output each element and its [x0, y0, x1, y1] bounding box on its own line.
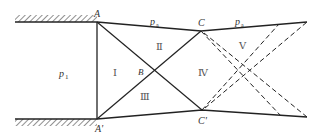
svg-text:1: 1 [65, 73, 69, 81]
svg-text:p: p [234, 16, 240, 27]
expansion-fan-upper [201, 31, 307, 117]
upper-wall [15, 15, 97, 22]
svg-text:a: a [156, 22, 159, 28]
pressure-label-pa-right: p a [234, 16, 244, 28]
svg-text:p: p [149, 16, 155, 27]
point-C-prime-label: C' [198, 115, 208, 126]
point-A-prime-label: A' [94, 123, 104, 134]
pressure-label-pa-left: p a [149, 16, 159, 28]
point-A-label: A [93, 8, 101, 19]
svg-text:p: p [58, 68, 64, 79]
region-IV-label: Ⅳ [198, 67, 209, 78]
region-V-label: Ⅴ [238, 40, 247, 51]
jet-wave-diagram: A A' B C C' p 1 p a p a Ⅰ Ⅱ Ⅲ Ⅳ Ⅴ [0, 0, 316, 135]
point-C-label: C [198, 17, 205, 28]
pressure-label-p1: p 1 [58, 68, 69, 81]
region-II-label: Ⅱ [156, 41, 163, 52]
region-I-label: Ⅰ [113, 67, 117, 78]
expansion-fan-lower [202, 22, 307, 110]
svg-text:a: a [241, 22, 244, 28]
region-III-label: Ⅲ [140, 91, 150, 102]
point-B-label: B [138, 67, 144, 77]
lower-wall [15, 119, 97, 126]
